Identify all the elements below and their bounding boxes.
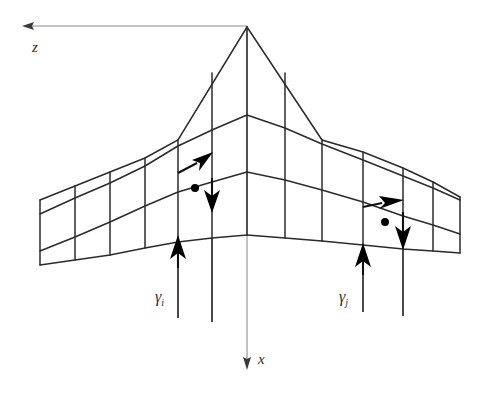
vortex-ring-i-control-point [191,184,199,192]
vortex-ring-i-arrow-bound [178,152,213,173]
z-axis-label: z [31,39,38,55]
figure-canvas: z x γi γj [0,0,481,393]
vortex-ring-i-arrow-up-left [170,235,186,268]
vortex-ring-i-bound-seg [178,163,197,173]
right-chord-line-1 [247,115,460,200]
vortex-ring-j-arrowhead-bound [379,196,404,209]
vortex-ring-j-arrow-bound [363,196,404,209]
z-axis [22,22,247,30]
right-chord-line-2 [247,172,460,234]
x-axis-label: x [257,351,265,367]
right-trailing-edge [247,235,460,253]
gamma-i-subscript: i [161,297,164,308]
gamma-j-label: γj [339,288,348,308]
gamma-i-label: γi [155,288,164,308]
right-leading-edge [247,27,460,197]
left-trailing-edge [40,235,247,265]
vortex-ring-i-arrowhead-bound [192,152,213,171]
left-wing-lattice [40,27,247,265]
left-chord-line-2 [40,172,247,251]
right-wing-lattice [247,27,460,253]
vortex-lattice-figure: z x γi γj [0,0,481,393]
left-leading-edge [40,27,247,200]
vortex-ring-j-control-point [381,218,389,226]
label-group: z x γi γj [31,39,348,367]
vortex-ring-j-arrow-up-left [355,243,371,275]
trailing-vortex-filaments [178,238,403,322]
